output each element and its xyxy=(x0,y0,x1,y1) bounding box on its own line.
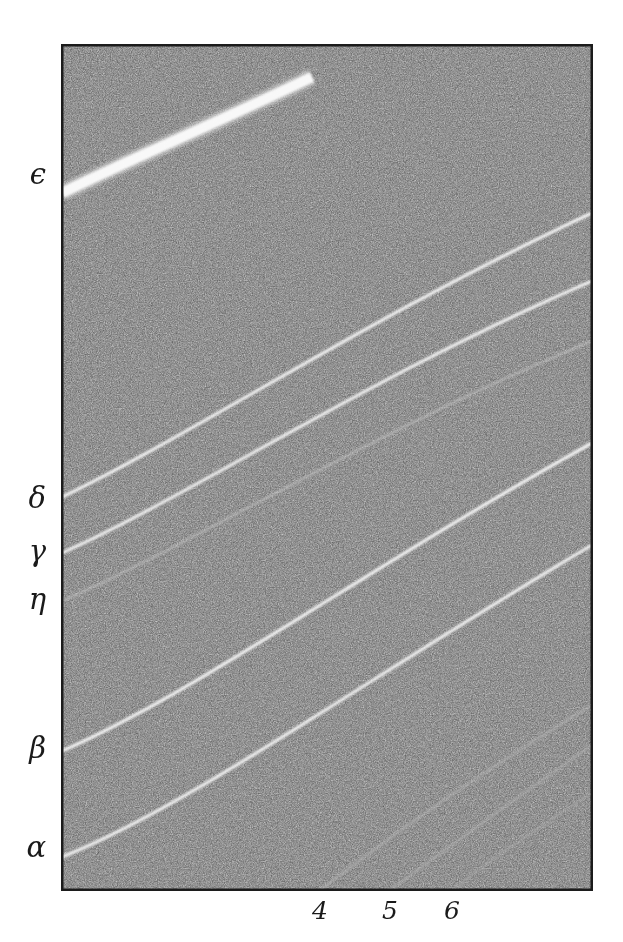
ring-label-gamma: γ xyxy=(0,537,46,566)
axis-tick-label-4: 4 xyxy=(300,898,340,923)
ring-label-alpha: α xyxy=(0,833,46,862)
ring-label-beta: β xyxy=(0,734,46,763)
ring-label-delta: δ xyxy=(0,484,46,513)
ring-image-panel xyxy=(62,45,592,890)
figure-root: ϵ δ γ η β α 4 5 6 xyxy=(0,0,623,942)
axis-tick-label-5: 5 xyxy=(370,898,410,923)
ring-label-epsilon: ϵ xyxy=(0,160,46,189)
ring-label-eta: η xyxy=(0,585,46,614)
ring-image-svg xyxy=(62,45,592,890)
panel-grain-overlay xyxy=(62,45,592,890)
axis-tick-label-6: 6 xyxy=(432,898,472,923)
